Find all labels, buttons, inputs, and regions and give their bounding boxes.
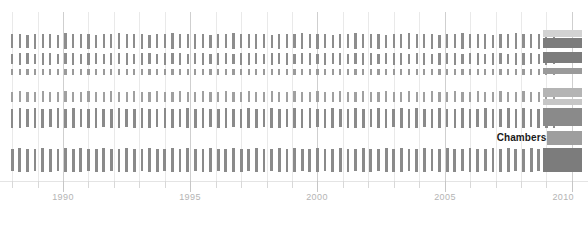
bar (454, 109, 457, 128)
bar (293, 54, 295, 64)
bar (110, 91, 112, 102)
bar (95, 53, 97, 64)
bar (34, 92, 36, 102)
bar (49, 92, 51, 102)
bar (339, 69, 341, 75)
bar (202, 34, 204, 48)
block-row-1-top (543, 30, 582, 37)
bar (370, 53, 372, 65)
bar (400, 108, 403, 128)
bar (141, 34, 143, 49)
bar (400, 92, 402, 102)
bar (453, 149, 456, 172)
bar (499, 91, 501, 102)
axis-tick-1992 (114, 181, 115, 188)
bar (438, 53, 440, 65)
bar (49, 149, 52, 172)
bar (293, 91, 295, 102)
bar (316, 148, 319, 172)
bar (118, 108, 121, 128)
bar (255, 148, 258, 172)
bar (431, 91, 433, 102)
bar (469, 148, 472, 172)
bar (72, 69, 74, 75)
bar (286, 53, 288, 65)
bar (57, 54, 59, 64)
bar (19, 53, 21, 65)
bar (194, 109, 197, 128)
bar (225, 34, 227, 48)
axis-tick-2010 (572, 181, 573, 192)
bar (530, 148, 533, 172)
bar (209, 148, 212, 172)
bar (26, 92, 28, 102)
bar (331, 108, 334, 128)
bar (133, 149, 136, 172)
bar (64, 91, 66, 102)
bar (57, 108, 60, 128)
bar (454, 69, 456, 75)
bar (515, 92, 517, 102)
bar (461, 149, 464, 171)
bar (316, 54, 318, 64)
bar (263, 34, 265, 48)
bar (110, 69, 112, 75)
bar (324, 53, 326, 65)
bar (255, 53, 257, 64)
bar (477, 69, 479, 75)
bar (95, 108, 98, 128)
bar (232, 148, 235, 172)
bar (102, 109, 105, 127)
bar (332, 35, 334, 48)
bar (369, 149, 372, 172)
bar (19, 108, 22, 128)
bar (148, 148, 151, 172)
bar (324, 149, 327, 171)
bar (41, 148, 44, 172)
bar (270, 149, 273, 171)
bar (370, 109, 373, 127)
bar (385, 91, 387, 102)
bar (217, 53, 219, 65)
bar (247, 149, 250, 171)
bar (278, 148, 281, 172)
bar (194, 69, 196, 75)
bar (72, 34, 74, 48)
bar (438, 69, 440, 75)
bar (263, 149, 266, 172)
bar (49, 53, 51, 65)
bar (385, 109, 388, 128)
axis-label-2010: 2010 (552, 192, 574, 202)
bar (248, 34, 250, 48)
bar (423, 34, 425, 48)
bar (492, 109, 495, 128)
bar (118, 53, 120, 64)
bar (80, 109, 83, 127)
bar (301, 53, 303, 64)
bar (393, 92, 395, 102)
bar (240, 109, 243, 128)
bar (469, 34, 471, 48)
bar (57, 149, 60, 171)
bar (80, 34, 82, 48)
axis-tick-2003 (394, 181, 395, 188)
bar (484, 54, 486, 64)
bar (133, 69, 135, 75)
bar (362, 69, 364, 75)
bar (95, 92, 97, 102)
axis-tick-1997 (241, 181, 242, 188)
bar (515, 109, 518, 128)
bar (49, 109, 52, 127)
bar (79, 148, 82, 172)
bar (301, 109, 304, 128)
bar (271, 69, 273, 75)
bar (316, 91, 318, 102)
bar (217, 149, 220, 171)
bar (370, 92, 372, 102)
bar (148, 69, 150, 75)
bar (408, 91, 410, 102)
bar (309, 34, 311, 48)
bar (370, 69, 372, 75)
bar (19, 91, 21, 102)
bar (408, 69, 410, 75)
